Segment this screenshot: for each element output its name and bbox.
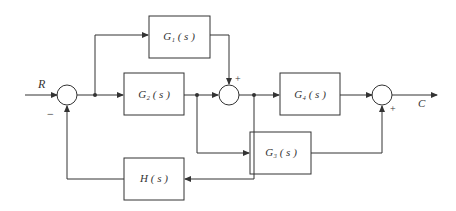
- block-h-label: H ( s ): [139, 172, 168, 185]
- block-g2-label: G₂ ( s ): [138, 88, 170, 101]
- block-g1-label: G₁ ( s ): [163, 30, 195, 43]
- input-label: R: [37, 77, 46, 91]
- summing-junction-1: [57, 85, 77, 105]
- sum1-minus-sign: −: [47, 107, 54, 121]
- branch-point-1: [93, 93, 97, 97]
- summing-junction-3: [372, 85, 392, 105]
- sum3-plus-sign: +: [390, 103, 396, 114]
- block-diagram: R C G₁ ( s ) G₂ ( s ) G₄ ( s ) G₃ ( s ) …: [0, 0, 456, 211]
- output-label: C: [418, 97, 426, 109]
- branch-point-2: [195, 93, 199, 97]
- branch-point-3: [252, 93, 256, 97]
- sum2-plus-sign: +: [235, 73, 241, 84]
- block-g3-label: G₃ ( s ): [265, 146, 297, 159]
- block-g4-label: G₄ ( s ): [294, 88, 326, 101]
- summing-junction-2: [219, 85, 239, 105]
